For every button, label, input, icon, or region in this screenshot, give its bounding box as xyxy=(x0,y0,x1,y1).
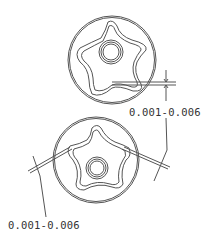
rotor-clearance-diagram xyxy=(0,0,219,238)
top-shaft-hole-mid xyxy=(101,42,121,62)
top-clearance-label: 0.001-0.006 xyxy=(129,106,201,118)
top-feeler-gauge xyxy=(112,82,176,85)
bottom-inner-rotor-star-inner xyxy=(73,130,126,186)
bottom-inner-rotor-star xyxy=(68,126,130,191)
bottom-clearance-label: 0.001-0.006 xyxy=(8,219,80,231)
bottom-outer-housing-inner-edge xyxy=(55,119,138,202)
bottom-shaft-hole-inner xyxy=(90,161,104,175)
bottom-shaft-hole-mid xyxy=(88,159,106,177)
top-shaft-hole-inner xyxy=(103,44,119,60)
bottom-shaft-hole-outer xyxy=(86,157,108,179)
top-inner-rotor-star-inner xyxy=(82,26,142,91)
bottom-rotor-view xyxy=(28,117,170,217)
bottom-right-leader xyxy=(154,118,167,181)
top-rotor-view xyxy=(68,16,176,104)
